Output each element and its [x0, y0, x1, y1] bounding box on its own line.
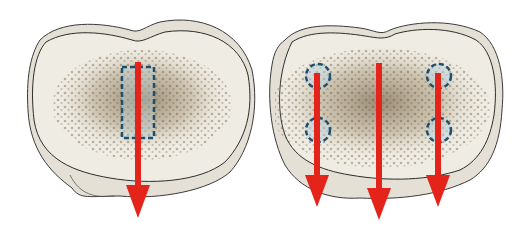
bone-cross-section-figure: [0, 0, 527, 233]
figure-stage: [0, 0, 527, 233]
right-bone-section: [270, 23, 503, 199]
